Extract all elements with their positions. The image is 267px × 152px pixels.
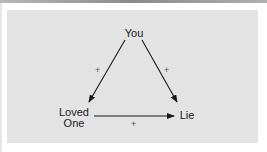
sign-loved-one-lie: + xyxy=(131,120,136,129)
node-lie: Lie xyxy=(178,110,196,121)
node-loved-one-line2: One xyxy=(58,118,90,129)
triangle-arrows xyxy=(0,0,267,152)
node-lie-label: Lie xyxy=(180,109,195,121)
arrow-you-to-lie xyxy=(142,40,177,102)
sign-you-loved-one: + xyxy=(95,66,100,75)
sign-you-lie: + xyxy=(164,66,169,75)
node-you-label: You xyxy=(125,27,144,39)
node-loved-one: Loved One xyxy=(58,107,90,129)
node-you: You xyxy=(122,28,146,39)
